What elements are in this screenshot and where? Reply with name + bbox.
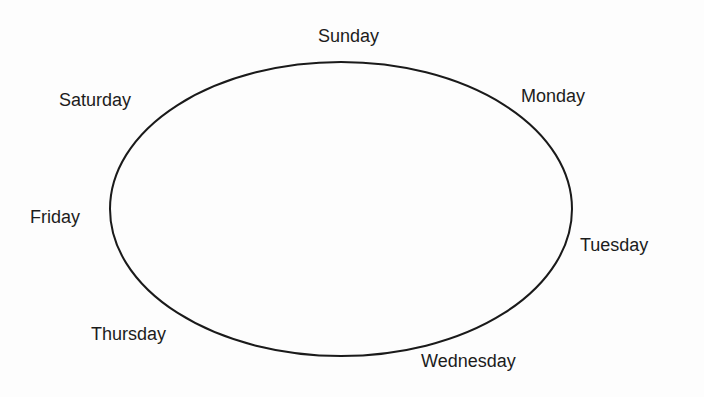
label-sunday: Sunday xyxy=(318,26,379,46)
label-saturday: Saturday xyxy=(59,90,131,110)
label-thursday: Thursday xyxy=(91,324,166,344)
label-monday: Monday xyxy=(521,86,585,106)
label-wednesday: Wednesday xyxy=(421,351,516,371)
label-friday: Friday xyxy=(30,207,80,227)
ellipse-outline xyxy=(110,62,572,356)
diagram-canvas: Sunday Monday Tuesday Wednesday Thursday… xyxy=(0,0,704,397)
label-tuesday: Tuesday xyxy=(580,235,648,255)
